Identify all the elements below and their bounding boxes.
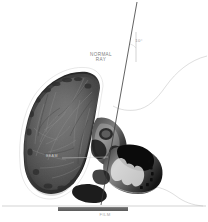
mandible-maxilla <box>103 144 162 194</box>
beam-label: BEAM <box>46 154 86 158</box>
angle-arc <box>130 44 136 48</box>
film-caption-label: FILM <box>84 213 126 218</box>
skull-radiograph-figure: NORMAL RAY 10° BEAM FILM <box>0 0 208 222</box>
radiograph-artwork <box>0 0 208 222</box>
normal-ray-label: NORMAL RAY <box>78 52 124 63</box>
angle-label: 10° <box>132 39 146 44</box>
film-bar <box>58 207 128 211</box>
